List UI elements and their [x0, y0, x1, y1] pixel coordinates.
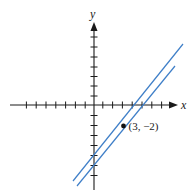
y-axis-label: y [89, 7, 96, 21]
point-label: (3, −2) [129, 120, 159, 133]
point-marker [121, 124, 126, 129]
x-axis-arrow-icon [169, 102, 178, 109]
line-1 [73, 44, 183, 181]
y-axis-arrow-icon [91, 22, 98, 31]
x-axis-label: x [180, 98, 187, 112]
coordinate-plane: x y (3, − [0, 0, 195, 195]
